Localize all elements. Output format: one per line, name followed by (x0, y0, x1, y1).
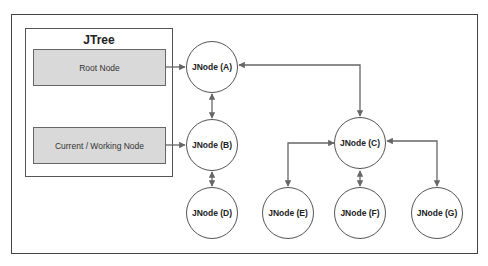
jnode-d: JNode (D) (186, 187, 238, 239)
edge-a-c (239, 65, 360, 116)
jnode-e: JNode (E) (262, 187, 314, 239)
edge-c-e (288, 143, 334, 186)
edge-c-g (387, 141, 437, 186)
jnode-c: JNode (C) (334, 117, 386, 169)
jnode-a: JNode (A) (186, 41, 238, 93)
jnode-b: JNode (B) (186, 119, 238, 171)
jnode-g: JNode (G) (411, 187, 463, 239)
jnode-f: JNode (F) (334, 187, 386, 239)
